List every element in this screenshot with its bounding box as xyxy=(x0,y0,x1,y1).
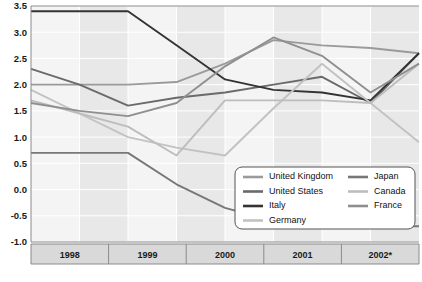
legend-label: United States xyxy=(269,186,324,196)
y-axis-tick-label: 0.0 xyxy=(14,184,27,195)
y-axis-tick-label: 3.5 xyxy=(14,0,28,11)
y-axis-tick-label: -1.0 xyxy=(11,236,27,247)
y-axis-tick-label: 0.5 xyxy=(14,158,28,169)
background-band xyxy=(177,6,226,242)
chart-legend: United KingdomUnited StatesItalyGermanyJ… xyxy=(235,167,415,229)
y-axis-tick-label: 1.5 xyxy=(14,105,28,116)
y-axis-tick-labels: 3.53.02.52.01.51.00.50.0-0.5-1.0 xyxy=(11,0,28,247)
x-axis-tick-label: 1999 xyxy=(137,250,157,260)
y-axis-tick-label: -0.5 xyxy=(11,210,28,221)
line-chart: 3.53.02.52.01.51.00.50.0-0.5-1.0 1998199… xyxy=(0,0,422,282)
background-band xyxy=(31,6,80,242)
y-axis-tick-label: 1.0 xyxy=(14,132,27,143)
chart-container: 3.53.02.52.01.51.00.50.0-0.5-1.0 1998199… xyxy=(0,0,422,282)
legend-label: Canada xyxy=(374,186,406,196)
y-axis-tick-label: 2.0 xyxy=(14,79,27,90)
legend-label: Japan xyxy=(374,171,399,181)
x-axis-tick-label: 2000 xyxy=(215,250,235,260)
legend-label: France xyxy=(374,200,402,210)
x-axis-tick-label: 1998 xyxy=(60,250,80,260)
y-axis-tick-label: 3.0 xyxy=(14,27,27,38)
x-axis-tick-label: 2001 xyxy=(293,250,313,260)
y-axis-tick-label: 2.5 xyxy=(14,53,28,64)
background-band xyxy=(128,6,177,242)
x-axis-tick-label: 2002* xyxy=(368,250,392,260)
legend-label: United Kingdom xyxy=(269,171,333,181)
legend-label: Italy xyxy=(269,200,286,210)
legend-label: Germany xyxy=(269,215,307,225)
